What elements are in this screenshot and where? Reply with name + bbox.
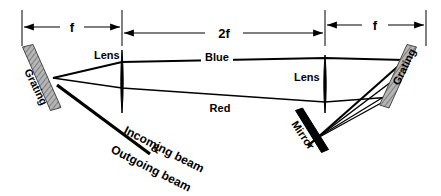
- mirror: Mirror: [289, 108, 328, 153]
- grating-right-label: Grating: [390, 46, 418, 86]
- dimension-f-left: f: [24, 20, 120, 35]
- dimension-two-f: 2f: [124, 26, 323, 41]
- red-beam-path: [53, 78, 392, 102]
- dimension-label-f-left: f: [70, 20, 75, 35]
- incoming-outgoing-beam: Incoming beam & Outgoing beam: [57, 85, 206, 195]
- lens-left: Lens: [94, 49, 123, 113]
- dimension-f-right: f: [327, 18, 424, 33]
- red-beam-label: Red: [210, 102, 231, 114]
- lens-right: Lens: [294, 55, 326, 113]
- lens-right-label: Lens: [294, 71, 320, 83]
- optical-layout-figure: f 2f f Incoming beam & Outg: [0, 0, 441, 196]
- lens-right-body: [324, 55, 326, 113]
- input-beam-line: [57, 85, 150, 154]
- diagram-canvas: f 2f f Incoming beam & Outg: [0, 0, 441, 196]
- dimension-label-f-right: f: [373, 18, 378, 33]
- blue-beam-label: Blue: [205, 51, 229, 63]
- lens-left-body: [121, 50, 123, 113]
- dimension-label-2f: 2f: [218, 26, 230, 41]
- spectral-labels: Blue Red: [201, 50, 235, 114]
- lens-left-label: Lens: [94, 49, 120, 61]
